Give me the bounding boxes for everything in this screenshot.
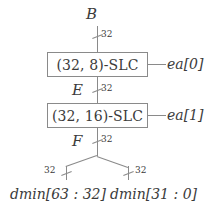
- fork-branch-right: [97, 156, 128, 168]
- output-width-label-left: 32: [44, 166, 55, 175]
- block-slc-32-16[interactable]: (32, 16)-SLC: [47, 103, 148, 128]
- input-width-label: 32: [101, 30, 112, 39]
- output-label-dmin-low: dmin[31 : 0]: [110, 187, 197, 201]
- signal-width-label-e: 32: [101, 84, 112, 93]
- input-wire: [97, 26, 98, 53]
- input-signal-label: B: [86, 7, 97, 22]
- enable-wire-1: [148, 115, 166, 116]
- block-slc-32-8[interactable]: (32, 8)-SLC: [47, 52, 148, 77]
- enable-label-ea1: ea[1]: [167, 108, 203, 122]
- enable-label-ea0: ea[0]: [167, 57, 203, 71]
- signal-label-f: F: [72, 134, 82, 149]
- fork-branch-left: [66, 155, 97, 167]
- signal-width-label-f: 32: [101, 135, 112, 144]
- output-width-label-right: 32: [135, 166, 146, 175]
- output-label-dmin-high: dmin[63 : 32]: [10, 187, 106, 201]
- slc-block-diagram: B 32 (32, 8)-SLC ea[0] E 32 (32, 16)-SLC…: [0, 0, 207, 212]
- signal-label-e: E: [72, 83, 83, 98]
- enable-wire-0: [148, 64, 166, 65]
